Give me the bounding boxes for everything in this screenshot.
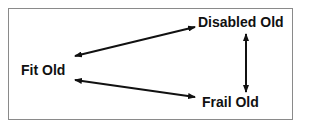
node-fit-old: Fit Old	[21, 63, 65, 77]
node-disabled-old: Disabled Old	[198, 15, 284, 29]
arrow-fit-disabled	[75, 27, 195, 56]
arrow-fit-frail	[75, 80, 195, 97]
node-frail-old: Frail Old	[202, 95, 259, 109]
